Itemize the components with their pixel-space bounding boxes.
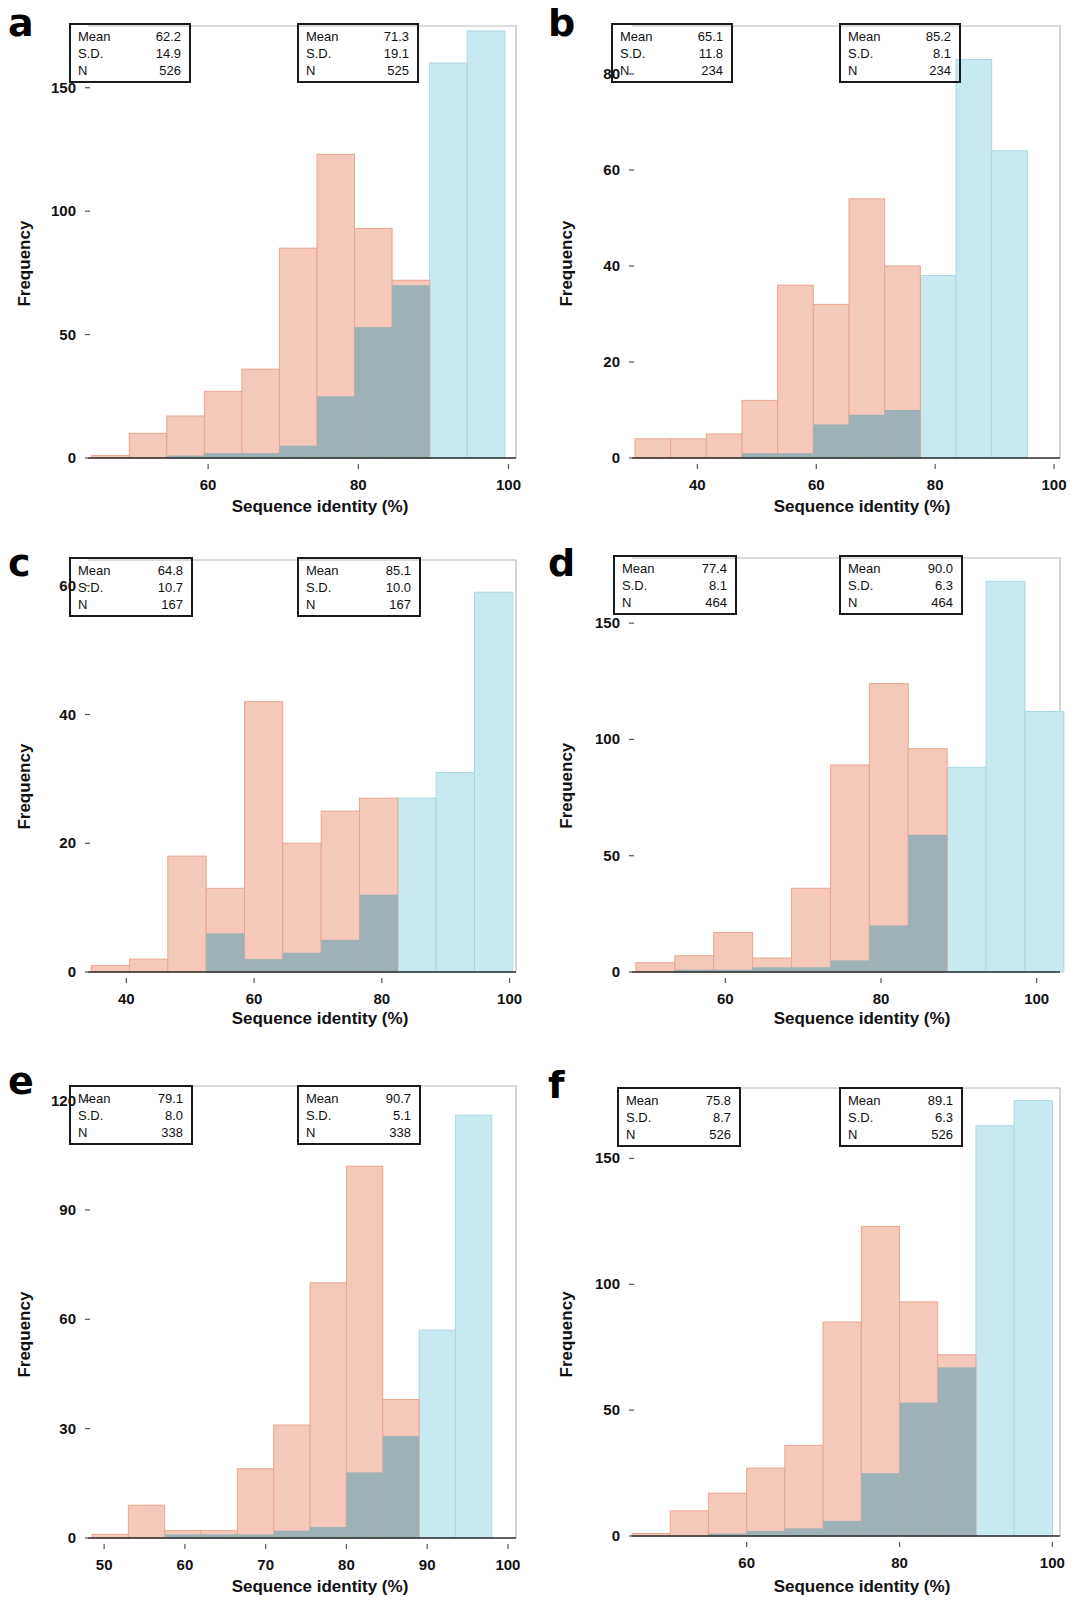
svg-text:50: 50: [59, 326, 76, 343]
svg-text:N: N: [848, 63, 857, 78]
svg-text:234: 234: [701, 63, 723, 78]
svg-text:N: N: [848, 1127, 857, 1142]
svg-text:100: 100: [595, 1275, 620, 1292]
x-axis-title-c: Sequence identity (%): [232, 1009, 409, 1028]
svg-text:167: 167: [161, 597, 183, 612]
svg-text:50: 50: [603, 1401, 620, 1418]
panel-b: b020406080406080100Sequence identity (%)…: [540, 0, 1077, 530]
svg-text:50: 50: [96, 1556, 113, 1573]
y-axis-d: 050100150: [595, 614, 634, 980]
series-pink-c: [91, 702, 398, 972]
svg-text:71.3: 71.3: [384, 29, 409, 44]
svg-text:11.8: 11.8: [699, 46, 723, 61]
svg-text:N: N: [626, 1127, 635, 1142]
svg-text:90: 90: [419, 1556, 436, 1573]
svg-text:Mean: Mean: [848, 561, 881, 576]
stat-box-right-f: Mean89.1S.D.6.3N526: [840, 1088, 962, 1146]
svg-text:60: 60: [59, 1310, 76, 1327]
svg-text:S.D.: S.D.: [306, 46, 331, 61]
svg-text:8.0: 8.0: [165, 1108, 183, 1123]
stat-box-left-f: Mean75.8S.D.8.7N526: [618, 1088, 740, 1146]
svg-text:Mean: Mean: [78, 29, 111, 44]
svg-text:90: 90: [59, 1201, 76, 1218]
svg-text:100: 100: [1042, 476, 1067, 493]
x-axis-d: 6080100: [717, 978, 1049, 1007]
y-axis-f: 050100150: [595, 1149, 634, 1544]
svg-text:100: 100: [497, 990, 522, 1007]
svg-text:6.3: 6.3: [935, 1110, 953, 1125]
svg-text:526: 526: [709, 1127, 731, 1142]
svg-text:N: N: [306, 1125, 315, 1140]
svg-text:Mean: Mean: [626, 1093, 659, 1108]
svg-text:77.4: 77.4: [702, 561, 727, 576]
svg-text:60: 60: [200, 476, 217, 493]
svg-text:Mean: Mean: [78, 563, 111, 578]
svg-text:0: 0: [68, 449, 76, 466]
svg-text:80: 80: [891, 1554, 908, 1571]
x-axis-title-b: Sequence identity (%): [774, 497, 951, 516]
stat-box-left-a: Mean62.2S.D.14.9N526: [70, 24, 190, 82]
svg-text:80: 80: [873, 990, 890, 1007]
svg-text:N: N: [306, 63, 315, 78]
svg-text:85.1: 85.1: [386, 563, 411, 578]
y-axis-title-d: Frequency: [557, 742, 576, 829]
svg-text:80: 80: [927, 476, 944, 493]
x-axis-title-a: Sequence identity (%): [232, 497, 409, 516]
svg-text:Mean: Mean: [848, 1093, 881, 1108]
svg-text:6.3: 6.3: [935, 578, 953, 593]
svg-text:100: 100: [51, 202, 76, 219]
stat-box-left-e: Mean79.1S.D.8.0N338: [70, 1086, 192, 1144]
svg-text:234: 234: [929, 63, 951, 78]
svg-text:90.0: 90.0: [928, 561, 953, 576]
panel-d: d0501001506080100Sequence identity (%)Fr…: [540, 530, 1077, 1040]
svg-text:10.0: 10.0: [386, 580, 411, 595]
svg-text:Mean: Mean: [306, 563, 339, 578]
svg-text:0: 0: [612, 963, 620, 980]
svg-text:8.1: 8.1: [709, 578, 727, 593]
svg-text:Mean: Mean: [620, 29, 653, 44]
svg-text:S.D.: S.D.: [306, 1108, 331, 1123]
svg-text:S.D.: S.D.: [622, 578, 647, 593]
svg-text:Mean: Mean: [78, 1091, 111, 1106]
svg-text:464: 464: [931, 595, 953, 610]
y-axis-c: 0204060: [59, 577, 90, 980]
svg-text:526: 526: [159, 63, 181, 78]
histogram-d: 0501001506080100Sequence identity (%)Fre…: [540, 530, 1077, 1040]
histogram-b: 020406080406080100Sequence identity (%)F…: [540, 0, 1077, 530]
stat-box-right-a: Mean71.3S.D.19.1N525: [298, 24, 418, 82]
y-axis-title-b: Frequency: [557, 220, 576, 307]
svg-text:10.7: 10.7: [158, 580, 183, 595]
x-axis-title-f: Sequence identity (%): [774, 1577, 951, 1596]
svg-text:Mean: Mean: [306, 29, 339, 44]
svg-text:338: 338: [161, 1125, 183, 1140]
svg-text:338: 338: [389, 1125, 411, 1140]
svg-text:Mean: Mean: [306, 1091, 339, 1106]
svg-text:N: N: [848, 595, 857, 610]
svg-text:N: N: [78, 1125, 87, 1140]
svg-text:50: 50: [603, 847, 620, 864]
svg-text:60: 60: [738, 1554, 755, 1571]
panel-a: a0501001506080100Sequence identity (%)Fr…: [0, 0, 540, 530]
svg-text:64.8: 64.8: [158, 563, 183, 578]
svg-text:Mean: Mean: [622, 561, 655, 576]
svg-text:S.D.: S.D.: [78, 46, 103, 61]
panel-c: c0204060406080100Sequence identity (%)Fr…: [0, 530, 540, 1040]
y-axis-title-e: Frequency: [15, 1291, 34, 1378]
svg-text:79.1: 79.1: [158, 1091, 183, 1106]
svg-text:S.D.: S.D.: [306, 580, 331, 595]
svg-text:40: 40: [59, 706, 76, 723]
svg-text:14.9: 14.9: [156, 46, 181, 61]
svg-text:70: 70: [257, 1556, 274, 1573]
svg-text:525: 525: [387, 63, 409, 78]
stat-box-left-d: Mean77.4S.D.8.1N464: [614, 556, 736, 614]
svg-text:0: 0: [612, 1527, 620, 1544]
y-axis-b: 020406080: [603, 65, 634, 466]
svg-text:100: 100: [496, 476, 521, 493]
svg-text:62.2: 62.2: [156, 29, 181, 44]
svg-text:30: 30: [59, 1420, 76, 1437]
svg-text:5.1: 5.1: [393, 1108, 411, 1123]
y-axis-title-f: Frequency: [557, 1291, 576, 1378]
svg-text:526: 526: [931, 1127, 953, 1142]
x-axis-f: 6080100: [738, 1542, 1065, 1571]
svg-text:40: 40: [118, 990, 135, 1007]
